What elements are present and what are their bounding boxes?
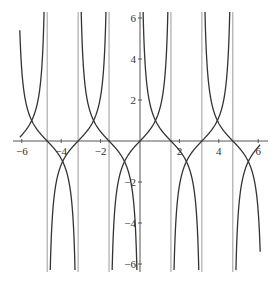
x-tick-label: 4 xyxy=(216,145,222,157)
y-tick-label: 6 xyxy=(131,12,137,24)
chart-plot: −6−4−2246 642−2−4−6 xyxy=(0,0,273,283)
x-tick-label: −2 xyxy=(95,145,107,157)
x-tick-label: −6 xyxy=(16,145,28,157)
y-tick-label: −6 xyxy=(124,258,136,270)
y-tick-label: 4 xyxy=(131,53,137,65)
y-tick-label: 2 xyxy=(131,94,137,106)
